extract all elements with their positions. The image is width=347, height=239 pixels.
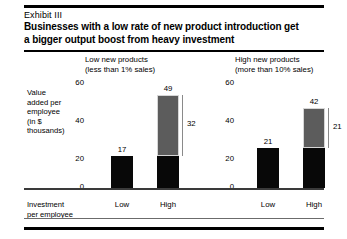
panel-low-new-products: Low new products (less than 1% sales) 60… [85, 55, 195, 200]
bar-right-low[interactable]: 21 [257, 148, 279, 188]
y-tick-40-left: 40 [68, 116, 84, 125]
panel-heading-left: Low new products (less than 1% sales) [85, 55, 155, 74]
panel-heading-right: High new products (more than 10% sales) [235, 55, 313, 74]
bar-right-high-base [303, 148, 325, 188]
bar-left-low[interactable]: 17 [111, 156, 133, 188]
x-category-right-high: High [294, 200, 334, 209]
y-tick-20-right: 20 [218, 154, 234, 163]
x-axis-caption: Investment per employee [27, 200, 97, 219]
y-axis-caption-line-1: Value [27, 88, 81, 98]
bottom-rule [24, 227, 324, 230]
bar-right-low-value: 21 [264, 137, 273, 146]
y-tick-60-left: 60 [68, 78, 84, 87]
title-rule [24, 50, 324, 52]
bracket-left-high [182, 95, 183, 156]
page-title: Businesses with a low rate of new produc… [24, 21, 324, 46]
bracket-right-high [328, 108, 329, 148]
title-line-2: a bigger output boost from heavy investm… [24, 34, 324, 47]
y-axis-caption: Value added per employee (in $ thousands… [27, 88, 81, 136]
bracket-left-high-value: 32 [187, 119, 196, 128]
y-tick-0-left: 0 [68, 182, 84, 191]
title-line-1: Businesses with a low rate of new produc… [24, 21, 299, 32]
panel-heading-left-line-1: Low new products [85, 55, 148, 64]
x-category-right-low: Low [248, 200, 288, 209]
y-tick-20-left: 20 [68, 154, 84, 163]
x-category-left-high: High [148, 200, 188, 209]
bar-right-high[interactable]: 42 21 [303, 108, 325, 188]
x-category-left-low: Low [102, 200, 142, 209]
bar-left-low-base [111, 156, 133, 188]
bracket-right-high-value: 21 [333, 122, 342, 131]
bar-right-low-base [257, 148, 279, 188]
bar-left-high[interactable]: 49 32 [157, 95, 179, 188]
exhibit-label: Exhibit III [24, 10, 62, 20]
bar-right-high-increment [303, 108, 325, 148]
axis-separator-rule [24, 218, 324, 219]
bar-left-high-value: 49 [164, 84, 173, 93]
panel-high-new-products: High new products (more than 10% sales) … [235, 55, 345, 200]
panel-heading-right-line-1: High new products [235, 55, 300, 64]
y-axis-caption-line-2: added per [27, 98, 81, 108]
y-axis-caption-line-5: thousands) [27, 126, 81, 136]
bar-left-low-value: 17 [118, 145, 127, 154]
chart-baseline [24, 188, 324, 190]
exhibit-figure: Exhibit III Businesses with a low rate o… [0, 0, 347, 239]
bar-right-high-value: 42 [310, 97, 319, 106]
y-tick-60-right: 60 [218, 78, 234, 87]
panel-heading-left-line-2: (less than 1% sales) [85, 65, 155, 75]
bar-left-high-base [157, 156, 179, 188]
top-rule [24, 5, 324, 8]
bar-left-high-increment [157, 95, 179, 156]
panel-heading-right-line-2: (more than 10% sales) [235, 65, 313, 75]
y-tick-40-right: 40 [218, 116, 234, 125]
x-axis-caption-line-1: Investment [27, 200, 97, 210]
y-tick-0-right: 0 [218, 182, 234, 191]
